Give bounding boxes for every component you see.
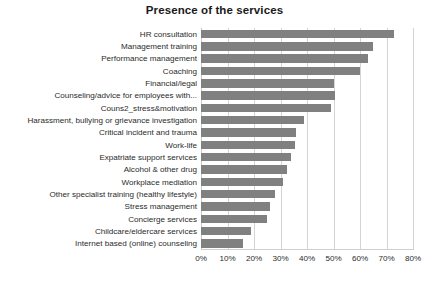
bar-series — [201, 28, 413, 250]
bar-row — [201, 213, 413, 225]
bar — [201, 165, 287, 174]
x-axis-tick-labels: 0%10%20%30%40%50%60%70%80% — [201, 250, 413, 266]
bar-chart: Presence of the services HR consultation… — [0, 0, 429, 285]
bar — [201, 202, 270, 211]
category-axis-labels: HR consultationManagement trainingPerfor… — [0, 28, 197, 250]
bar — [201, 227, 251, 236]
bar — [201, 128, 296, 137]
bar — [201, 42, 373, 51]
bar — [201, 141, 295, 150]
x-tick-label: 40% — [299, 254, 315, 263]
category-label: Coaching — [163, 67, 197, 76]
category-label: Harassment, bullying or grievance invest… — [27, 116, 197, 125]
x-tick-label: 80% — [405, 254, 421, 263]
category-label-row: Management training — [0, 40, 197, 52]
category-label-row: Other specialist training (healthy lifes… — [0, 188, 197, 200]
bar-row — [201, 40, 413, 52]
category-label-row: Alcohol & other drug — [0, 164, 197, 176]
x-tick-label: 20% — [246, 254, 262, 263]
category-label-row: Internet based (online) counseling — [0, 238, 197, 250]
category-label-row: Critical incident and trauma — [0, 127, 197, 139]
category-label: Stress management — [125, 202, 197, 211]
bar-row — [201, 102, 413, 114]
category-label-row: Stress management — [0, 201, 197, 213]
bar — [201, 239, 243, 248]
category-label-row: Couns2_stress&motivation — [0, 102, 197, 114]
bar — [201, 67, 360, 76]
category-label-row: Coaching — [0, 65, 197, 77]
x-tick-label: 70% — [378, 254, 394, 263]
bar-row — [201, 65, 413, 77]
gridline-80% — [413, 28, 414, 250]
category-label: Work-life — [165, 141, 197, 150]
bar — [201, 30, 394, 39]
bar — [201, 190, 275, 199]
category-label: Other specialist training (healthy lifes… — [49, 190, 197, 199]
category-label-row: Harassment, bullying or grievance invest… — [0, 114, 197, 126]
bar — [201, 79, 334, 88]
bar-row — [201, 201, 413, 213]
bar-row — [201, 53, 413, 65]
bar — [201, 116, 304, 125]
category-label: Management training — [121, 42, 197, 51]
category-label: Expatriate support services — [99, 153, 197, 162]
bar-row — [201, 151, 413, 163]
x-tick-label: 30% — [272, 254, 288, 263]
bar-row — [201, 77, 413, 89]
category-label: Workplace mediation — [122, 178, 197, 187]
category-label: Counseling/advice for employees with... — [54, 91, 197, 100]
category-label-row: HR consultation — [0, 28, 197, 40]
category-label: Internet based (online) counseling — [75, 239, 197, 248]
bar-row — [201, 188, 413, 200]
category-label: Alcohol & other drug — [124, 165, 197, 174]
category-label-row: Financial/legal — [0, 77, 197, 89]
category-label: Childcare/eldercare services — [95, 227, 197, 236]
x-tick-label: 60% — [352, 254, 368, 263]
x-tick-label: 10% — [219, 254, 235, 263]
category-label: Performance management — [101, 54, 197, 63]
category-label: Concierge services — [128, 215, 197, 224]
bar — [201, 153, 291, 162]
category-label: Critical incident and trauma — [99, 128, 197, 137]
bar-row — [201, 114, 413, 126]
plot-area — [201, 28, 413, 250]
bar — [201, 104, 331, 113]
category-label-row: Work-life — [0, 139, 197, 151]
bar-row — [201, 127, 413, 139]
bar-row — [201, 164, 413, 176]
bar — [201, 54, 368, 63]
category-label-row: Performance management — [0, 53, 197, 65]
bar-row — [201, 225, 413, 237]
bar-row — [201, 28, 413, 40]
x-tick-label: 0% — [195, 254, 207, 263]
bar — [201, 178, 283, 187]
category-label: Couns2_stress&motivation — [101, 104, 197, 113]
category-label-row: Workplace mediation — [0, 176, 197, 188]
bar-row — [201, 90, 413, 102]
category-label-row: Expatriate support services — [0, 151, 197, 163]
x-tick-label: 50% — [325, 254, 341, 263]
bar-row — [201, 176, 413, 188]
category-label: HR consultation — [140, 30, 197, 39]
bar — [201, 91, 335, 100]
category-label-row: Counseling/advice for employees with... — [0, 90, 197, 102]
category-label-row: Childcare/eldercare services — [0, 225, 197, 237]
category-label-row: Concierge services — [0, 213, 197, 225]
chart-title: Presence of the services — [0, 4, 429, 16]
bar-row — [201, 139, 413, 151]
bar — [201, 215, 267, 224]
category-label: Financial/legal — [145, 79, 197, 88]
